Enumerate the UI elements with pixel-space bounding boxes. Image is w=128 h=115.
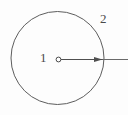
callout-label-1: 1 bbox=[40, 51, 47, 64]
figure-canvas: 1 2 bbox=[0, 0, 128, 115]
center-point-marker bbox=[56, 57, 61, 62]
callout-label-2: 2 bbox=[100, 12, 107, 25]
line-drawing-svg bbox=[0, 0, 128, 115]
